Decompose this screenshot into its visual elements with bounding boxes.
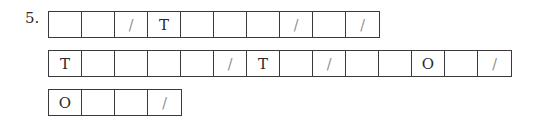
grid-cell[interactable]: [280, 51, 313, 76]
cipher-row-2: T/T/O/: [48, 50, 512, 77]
grid-cell[interactable]: [346, 51, 379, 76]
grid-cell[interactable]: [181, 12, 214, 37]
grid-cell[interactable]: [247, 12, 280, 37]
grid-cell[interactable]: /: [148, 90, 181, 115]
grid-cell[interactable]: [82, 51, 115, 76]
grid-cell[interactable]: [214, 12, 247, 37]
grid-cell[interactable]: /: [115, 12, 148, 37]
grid-cell[interactable]: [379, 51, 412, 76]
grid-cell[interactable]: T: [148, 12, 181, 37]
grid-cell[interactable]: O: [49, 90, 82, 115]
grid-cell[interactable]: [82, 90, 115, 115]
grid-cell[interactable]: T: [247, 51, 280, 76]
grid-cell[interactable]: [148, 51, 181, 76]
problem-number: 5.: [25, 9, 39, 27]
grid-cell[interactable]: /: [280, 12, 313, 37]
grid-cell[interactable]: [115, 90, 148, 115]
grid-cell[interactable]: [82, 12, 115, 37]
grid-cell[interactable]: [313, 12, 346, 37]
grid-cell[interactable]: /: [346, 12, 379, 37]
grid-cell[interactable]: /: [313, 51, 346, 76]
grid-cell[interactable]: O: [412, 51, 445, 76]
grid-cell[interactable]: [181, 51, 214, 76]
cipher-row-1: /T//: [48, 11, 380, 38]
grid-cell[interactable]: [115, 51, 148, 76]
grid-cell[interactable]: /: [214, 51, 247, 76]
grid-cell[interactable]: [445, 51, 478, 76]
cipher-row-3: O/: [48, 89, 182, 116]
grid-cell[interactable]: [49, 12, 82, 37]
grid-cell[interactable]: /: [478, 51, 511, 76]
grid-cell[interactable]: T: [49, 51, 82, 76]
